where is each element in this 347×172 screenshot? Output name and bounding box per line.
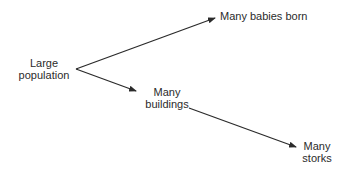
node-large-population: Large population: [14, 57, 74, 81]
arrow-buildings-to-storks: [189, 108, 296, 147]
node-many-storks-line1: Many: [297, 140, 337, 152]
node-large-population-line2: population: [14, 69, 74, 81]
node-many-storks-line2: storks: [297, 152, 337, 164]
node-many-storks: Many storks: [297, 140, 337, 164]
node-many-babies-born-line1: Many babies born: [220, 10, 307, 22]
node-many-buildings: Many buildings: [137, 86, 197, 110]
node-large-population-line1: Large: [14, 57, 74, 69]
arrow-population-to-buildings: [76, 69, 136, 91]
arrow-population-to-babies: [76, 18, 215, 69]
node-many-babies-born: Many babies born: [220, 10, 307, 22]
node-many-buildings-line2: buildings: [137, 98, 197, 110]
node-many-buildings-line1: Many: [137, 86, 197, 98]
